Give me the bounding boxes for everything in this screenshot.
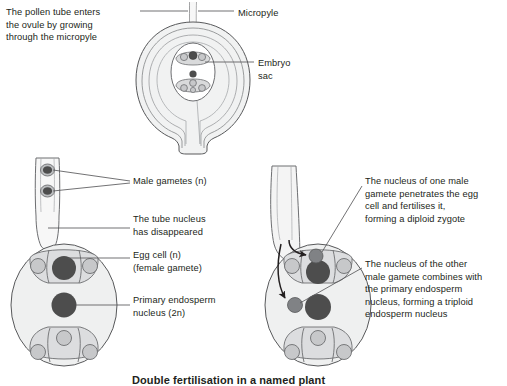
pollen-tube-tip-left — [35, 158, 60, 250]
egg-apparatus-right — [284, 249, 352, 284]
label-male-gametes: Male gametes (n) — [133, 175, 243, 188]
antipodal-cells-top — [176, 79, 210, 93]
synergid-right-right-panel — [337, 259, 352, 274]
bottom-left-panel — [11, 158, 117, 366]
label-other-male-gamete-endosperm: The nucleus of the other male gamete com… — [365, 258, 507, 321]
antipodal-cells-left — [30, 327, 98, 362]
antipodal-cells-right — [284, 327, 352, 362]
bottom-right-panel — [265, 166, 371, 366]
label-primary-endosperm-nucleus: Primary endosperm nucleus (2n) — [133, 294, 248, 319]
pollen-tube-tip-right — [271, 166, 300, 262]
male-gamete-2-nucleus — [43, 187, 52, 195]
synergid-left-right-panel — [285, 259, 300, 274]
figure-caption: Double fertilisation in a named plant — [132, 374, 325, 386]
egg-apparatus — [176, 52, 210, 66]
male-nucleus-at-egg — [309, 249, 323, 263]
synergid-left-top — [180, 53, 187, 60]
label-egg-cell: Egg cell (n) (female gamete) — [133, 249, 243, 274]
synergid-left — [31, 259, 46, 274]
egg-cell-left — [52, 256, 76, 280]
label-one-male-gamete-fertilisation: The nucleus of one male gamete penetrate… — [365, 175, 507, 225]
label-micropyle: Micropyle — [238, 7, 328, 20]
egg-cell-right — [306, 260, 330, 284]
egg-cell-top — [189, 52, 197, 60]
male-gamete-1-nucleus — [43, 166, 52, 174]
male-nucleus-at-central — [288, 298, 303, 313]
synergid-right — [83, 259, 98, 274]
central-nucleus-top — [189, 70, 196, 77]
leader-male-gamete-2 — [53, 183, 130, 191]
primary-endosperm-nucleus-left — [52, 293, 77, 318]
leader-one-male-gamete — [322, 186, 362, 252]
label-embryo-sac: Embryo sac — [258, 57, 328, 82]
label-pollen-tube: The pollen tube enters the ovule by grow… — [6, 6, 138, 44]
synergid-right-top — [198, 53, 205, 60]
label-tube-nucleus: The tube nucleus has disappeared — [133, 213, 243, 238]
egg-apparatus-left — [30, 250, 98, 283]
top-ovule-panel — [136, 2, 250, 154]
leader-male-gamete-1 — [53, 170, 130, 181]
